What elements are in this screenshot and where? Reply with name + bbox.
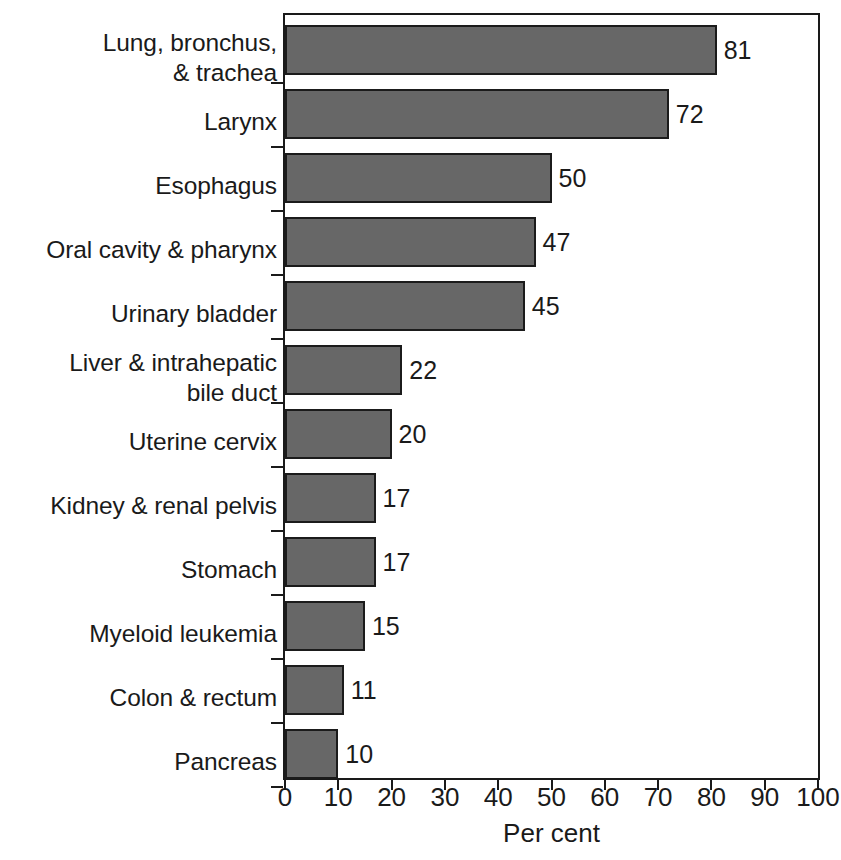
y-axis-tick: [271, 594, 283, 596]
bar-slot: 22: [285, 338, 818, 402]
x-axis-tick-label: 80: [697, 782, 726, 813]
bar: [285, 153, 552, 203]
bar: [285, 665, 344, 715]
category-label: Larynx: [0, 107, 277, 137]
bar: [285, 89, 669, 139]
bar: [285, 729, 338, 779]
x-axis-tick-label: 0: [278, 782, 292, 813]
category-label: Lung, bronchus, & trachea: [0, 28, 277, 88]
category-label: Urinary bladder: [0, 299, 277, 329]
y-axis-tick: [271, 210, 283, 212]
bar: [285, 25, 717, 75]
y-axis-tick: [271, 658, 283, 660]
x-axis-tick-label: 70: [644, 782, 673, 813]
bar-slot: 20: [285, 402, 818, 466]
y-axis-tick: [271, 338, 283, 340]
bar-value-label: 10: [338, 729, 373, 779]
bar: [285, 473, 376, 523]
bar-slot: 50: [285, 146, 818, 210]
bar-value-label: 15: [365, 601, 400, 651]
bar: [285, 281, 525, 331]
x-axis-tick-label: 20: [377, 782, 406, 813]
category-label: Liver & intrahepatic bile duct: [0, 348, 277, 408]
bar-value-label: 47: [536, 217, 571, 267]
y-axis-tick: [271, 402, 283, 404]
x-axis-tick-label: 50: [537, 782, 566, 813]
y-axis-tick: [271, 466, 283, 468]
bar-slot: 17: [285, 466, 818, 530]
bar-slot: 47: [285, 210, 818, 274]
bar-slot: 11: [285, 658, 818, 722]
bar: [285, 345, 402, 395]
x-axis-tick-label: 90: [750, 782, 779, 813]
bar-value-label: 20: [392, 409, 427, 459]
y-axis-tick: [271, 82, 283, 84]
bar: [285, 409, 392, 459]
x-axis-title-text: Per cent: [503, 818, 600, 848]
y-axis-tick: [271, 530, 283, 532]
category-label: Uterine cervix: [0, 427, 277, 457]
y-axis-tick: [271, 274, 283, 276]
x-axis-tick-label: 40: [484, 782, 513, 813]
y-axis-tick: [271, 146, 283, 148]
bar-value-label: 45: [525, 281, 560, 331]
bar-slot: 72: [285, 82, 818, 146]
bar-slot: 81: [285, 18, 818, 82]
x-axis-tick-label: 10: [324, 782, 353, 813]
x-axis-title: Per cent: [0, 818, 841, 849]
plot-top-border: [283, 13, 820, 15]
category-label: Stomach: [0, 555, 277, 585]
bar-value-label: 81: [717, 25, 752, 75]
plot-right-border: [818, 13, 820, 780]
bar-value-label: 17: [376, 473, 411, 523]
bar-value-label: 11: [344, 665, 377, 715]
x-axis-tick-label: 30: [430, 782, 459, 813]
bar-slot: 15: [285, 594, 818, 658]
bar-chart-figure: Lung, bronchus, & tracheaLarynxEsophagus…: [0, 0, 841, 860]
category-label: Colon & rectum: [0, 683, 277, 713]
category-label: Pancreas: [0, 747, 277, 777]
bar-value-label: 72: [669, 89, 704, 139]
category-label: Oral cavity & pharynx: [0, 235, 277, 265]
category-axis-labels: Lung, bronchus, & tracheaLarynxEsophagus…: [0, 13, 277, 778]
bar: [285, 537, 376, 587]
plot-area: 817250474522201717151110: [285, 13, 818, 778]
category-label: Kidney & renal pelvis: [0, 491, 277, 521]
bar-value-label: 22: [402, 345, 437, 395]
x-axis-tick-label: 100: [796, 782, 839, 813]
category-label: Esophagus: [0, 171, 277, 201]
y-axis-tick: [271, 722, 283, 724]
bar-slot: 10: [285, 722, 818, 786]
x-axis-tick-label: 60: [590, 782, 619, 813]
bar-value-label: 50: [552, 153, 587, 203]
bar-slot: 17: [285, 530, 818, 594]
category-label: Myeloid leukemia: [0, 619, 277, 649]
bar: [285, 601, 365, 651]
bar-slot: 45: [285, 274, 818, 338]
bar: [285, 217, 536, 267]
bar-value-label: 17: [376, 537, 411, 587]
